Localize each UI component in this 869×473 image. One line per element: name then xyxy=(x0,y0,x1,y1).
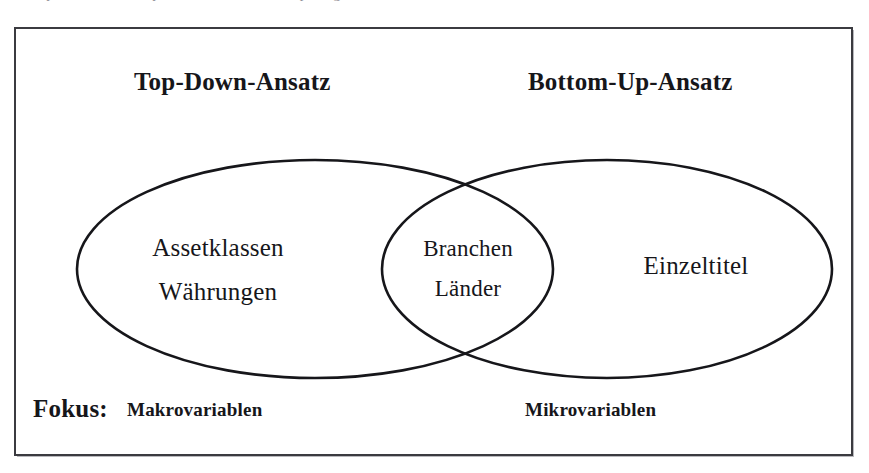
venn-label-branchen: Branchen xyxy=(388,236,548,262)
focus-value-makrovariablen: Makrovariablen xyxy=(127,399,262,421)
focus-value-mikrovariablen: Mikrovariablen xyxy=(525,399,656,421)
venn-label-einzeltitel: Einzeltitel xyxy=(596,252,796,280)
diagram-page: Beispiel fur einen Top-Down und Bottom-U… xyxy=(0,0,869,473)
venn-label-laender: Länder xyxy=(388,276,548,302)
ellipse-left-set xyxy=(77,160,553,378)
venn-label-waehrungen: Währungen xyxy=(118,278,318,306)
focus-row-label: Fokus: xyxy=(33,395,108,423)
venn-label-assetklassen: Assetklassen xyxy=(118,234,318,262)
